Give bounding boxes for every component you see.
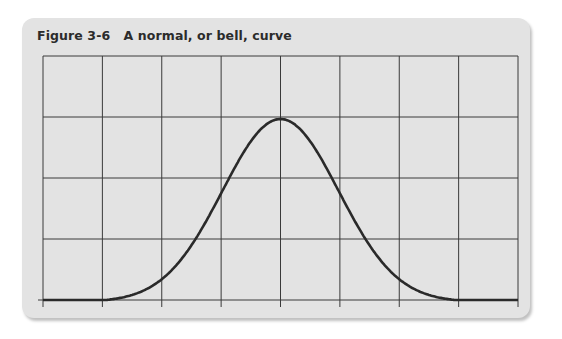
chart-grid: [38, 56, 518, 307]
bell-curve-chart: [0, 0, 562, 339]
